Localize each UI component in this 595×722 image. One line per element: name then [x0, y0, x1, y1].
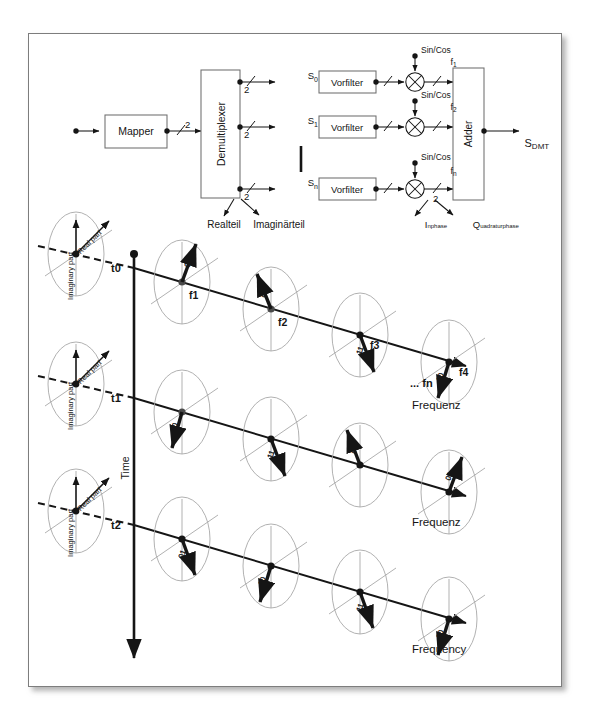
freq-marker-f4: f4 [459, 366, 468, 378]
constellation-t0-f2: 01 f2 [240, 267, 307, 351]
freq-marker-f2: f2 [278, 316, 287, 328]
freq-marker-f1: f1 [189, 289, 198, 301]
output-label-sdmt: SDMT [497, 137, 559, 151]
freq-tail-label: ... fn [410, 377, 433, 389]
real-axis-label-t0: Real part [76, 227, 105, 256]
time-marker-t1: t1 [111, 392, 121, 404]
imaginary-axis-label-t1: Imaginary part [66, 381, 75, 430]
branch-label-s0: S0 [284, 70, 337, 84]
bus-width-branch-1: 2 [244, 129, 249, 140]
freq-axis-label-t1: Frequenz [412, 516, 461, 528]
block-diagram: Mapper Demultiplexer Vorfilter Vorfilter… [29, 34, 559, 234]
reference-constellation-t0: Imaginary part Real part [45, 212, 112, 300]
time-marker-t0: t0 [111, 262, 121, 274]
carrier-label-3: Sin/Cos [421, 152, 451, 162]
bus-width-branch-0: 2 [244, 84, 249, 95]
constellation-t2-f1: 01 [151, 497, 218, 581]
carrier-freq-n: fn [428, 166, 474, 178]
figure-page: Mapper Demultiplexer Vorfilter Vorfilter… [0, 0, 595, 722]
carrier-freq-1: f1 [428, 57, 474, 69]
bit-label-t1-f3: 00 [348, 444, 359, 455]
mapper-label: Mapper [118, 125, 154, 137]
bus-width-mapper: 2 [185, 119, 190, 130]
freq-axis-label-t0: Frequenz [412, 399, 461, 411]
imaginary-axis-label-t2: Imaginary part [66, 508, 75, 557]
demultiplexer-label: Demultiplexer [215, 101, 227, 166]
constellation-t1-f1: 10 [151, 370, 218, 454]
carrier-freq-2: f2 [428, 102, 474, 114]
branch-label-s1: S1 [284, 115, 337, 129]
bus-width-mixer-n: 2 [433, 193, 438, 204]
figure-frame: Mapper Demultiplexer Vorfilter Vorfilter… [28, 33, 562, 687]
constellation-t2-f3: 11 [329, 550, 396, 634]
reference-constellation-t1: Imaginary part Real part [45, 342, 112, 430]
adder-label: Adder [463, 120, 474, 147]
constellation-t0-f1: 00 f1 [151, 240, 218, 324]
reference-constellation-t2: Imaginary part Real part [45, 469, 112, 557]
grid-row-t1: Imaginary part Real part 10 [38, 342, 485, 534]
constellation-t0-f4: 10 f4 [418, 320, 485, 404]
carrier-label-1: Sin/Cos [421, 45, 451, 55]
grid-row-t0: Imaginary part Real part 00 f1 [38, 212, 485, 411]
constellation-grid: Imaginary part Real part 00 f1 [29, 206, 559, 686]
freq-axis-label-t2: Frequency [412, 643, 467, 655]
time-axis-label: Time [119, 456, 131, 479]
imaginary-axis-label-t0: Imaginary part [66, 251, 75, 300]
bus-width-branch-n: 2 [244, 191, 249, 202]
branch-label-sn: Sn [284, 177, 337, 191]
constellation-t1-f3: 00 [329, 423, 396, 507]
freq-marker-f3: f3 [370, 339, 379, 351]
constellation-t1-f2: 11 [240, 397, 307, 481]
constellation-t0-f3: 11 f3 [329, 293, 396, 377]
real-axis-label-t1: Real part [76, 357, 105, 386]
real-axis-label-t2: Real part [76, 484, 105, 513]
time-marker-t2: t2 [111, 519, 121, 531]
grid-row-t2: Imaginary part Real part 01 [38, 469, 485, 661]
constellation-t2-f2: 10 [240, 524, 307, 608]
carrier-label-2: Sin/Cos [421, 90, 451, 100]
time-axis: Time t0 t1 t2 [111, 250, 138, 658]
